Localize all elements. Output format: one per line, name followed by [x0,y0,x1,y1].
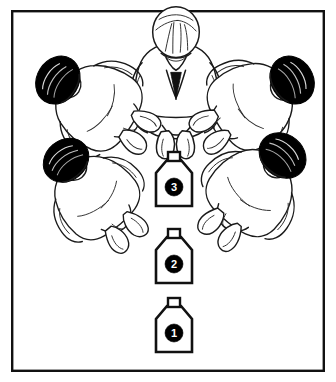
container-2-number: 2 [171,258,177,270]
scene-illustration: 3 2 1 [0,0,336,382]
container-3-number: 3 [171,181,177,193]
container-group: 3 2 1 [156,152,192,352]
container-1-number: 1 [171,327,177,339]
illustration-canvas: 3 2 1 Overhead view of five seated peopl… [0,0,336,382]
